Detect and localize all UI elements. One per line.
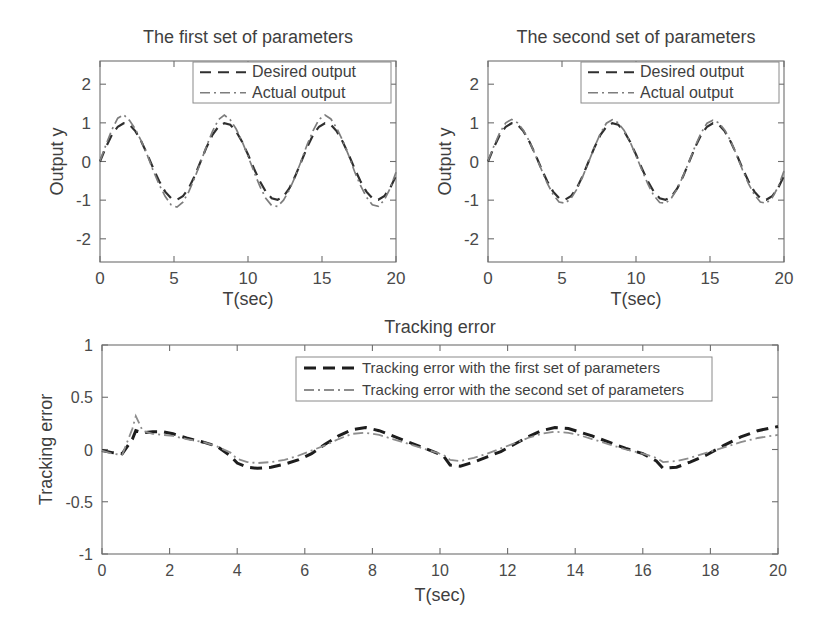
- x-tick-label: 20: [769, 562, 787, 579]
- y-axis-label-second-set: Output y: [435, 127, 455, 195]
- y-axis-label-tracking-error: Tracking error: [36, 394, 56, 505]
- series-line-0: [102, 427, 778, 469]
- x-axis-label-second-set: T(sec): [611, 289, 662, 309]
- chart-title-second-set: The second set of parameters: [516, 27, 755, 47]
- x-tick-label: 6: [300, 562, 309, 579]
- series-line-1: [488, 119, 784, 203]
- legend-label-1: Actual output: [640, 84, 734, 101]
- y-tick-label: 0: [84, 442, 93, 459]
- x-tick-label: 8: [368, 562, 377, 579]
- x-tick-label: 0: [483, 269, 492, 288]
- figure-canvas: The first set of parameters05101520-2-10…: [0, 0, 824, 636]
- x-tick-label: 0: [95, 269, 104, 288]
- x-tick-label: 2: [165, 562, 174, 579]
- chart-first-set: The first set of parameters05101520-2-10…: [47, 27, 405, 309]
- y-tick-label: 0: [470, 153, 479, 172]
- y-tick-label: 1: [82, 114, 91, 133]
- legend-label-0: Desired output: [640, 63, 745, 80]
- x-tick-label: 20: [387, 269, 406, 288]
- y-tick-label: -1: [464, 191, 479, 210]
- x-tick-label: 5: [557, 269, 566, 288]
- x-tick-label: 0: [98, 562, 107, 579]
- x-tick-label: 5: [169, 269, 178, 288]
- x-tick-label: 16: [634, 562, 652, 579]
- x-tick-label: 12: [499, 562, 517, 579]
- legend-label-0: Tracking error with the first set of par…: [362, 359, 660, 376]
- chart-title-first-set: The first set of parameters: [143, 27, 353, 47]
- y-tick-label: -2: [76, 230, 91, 249]
- y-tick-label: 2: [82, 75, 91, 94]
- y-tick-label: -1: [76, 191, 91, 210]
- y-tick-label: -1: [79, 546, 93, 563]
- chart-tracking-error: Tracking error02468101214161820-1-0.500.…: [36, 317, 787, 605]
- chart-title-tracking-error: Tracking error: [384, 317, 495, 337]
- legend-first-set: Desired outputActual output: [193, 62, 391, 103]
- y-axis-label-first-set: Output y: [47, 127, 67, 195]
- y-tick-label: 1: [470, 114, 479, 133]
- x-tick-label: 10: [627, 269, 646, 288]
- x-tick-label: 4: [233, 562, 242, 579]
- legend-label-0: Desired output: [252, 63, 357, 80]
- x-axis-label-first-set: T(sec): [223, 289, 274, 309]
- y-tick-label: 1: [84, 337, 93, 354]
- x-tick-label: 10: [239, 269, 258, 288]
- x-tick-label: 14: [566, 562, 584, 579]
- legend-label-1: Tracking error with the second set of pa…: [362, 381, 684, 398]
- chart-second-set: The second set of parameters05101520-2-1…: [435, 27, 793, 309]
- legend-label-1: Actual output: [252, 84, 346, 101]
- legend-tracking-error: Tracking error with the first set of par…: [296, 357, 712, 401]
- x-tick-label: 15: [701, 269, 720, 288]
- series-line-1: [102, 416, 778, 463]
- legend-second-set: Desired outputActual output: [581, 62, 779, 103]
- x-axis-label-tracking-error: T(sec): [415, 585, 466, 605]
- x-tick-label: 15: [313, 269, 332, 288]
- y-tick-label: 2: [470, 75, 479, 94]
- x-tick-label: 18: [702, 562, 720, 579]
- x-tick-label: 10: [431, 562, 449, 579]
- y-tick-label: 0: [82, 153, 91, 172]
- y-tick-label: -0.5: [65, 494, 93, 511]
- y-tick-label: -2: [464, 230, 479, 249]
- y-tick-label: 0.5: [71, 389, 93, 406]
- x-tick-label: 20: [775, 269, 794, 288]
